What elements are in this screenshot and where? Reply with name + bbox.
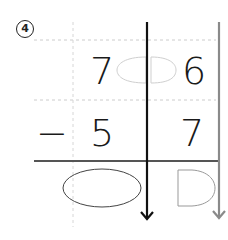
answer-ones-d-shape[interactable] [178,170,215,206]
problem-number-badge: 4 [16,20,34,38]
subtrahend-tens-digit: 5 [90,114,114,152]
minuend-ones-digit: 6 [182,52,206,90]
borrow-hint-left-half-oval [117,57,146,83]
answer-tens-oval[interactable] [63,169,141,207]
borrow-hint-right-d-shape [151,57,176,83]
subtrahend-ones-digit: 7 [180,114,204,152]
minus-operator: − [36,114,68,152]
minuend-tens-digit: 7 [90,52,114,90]
